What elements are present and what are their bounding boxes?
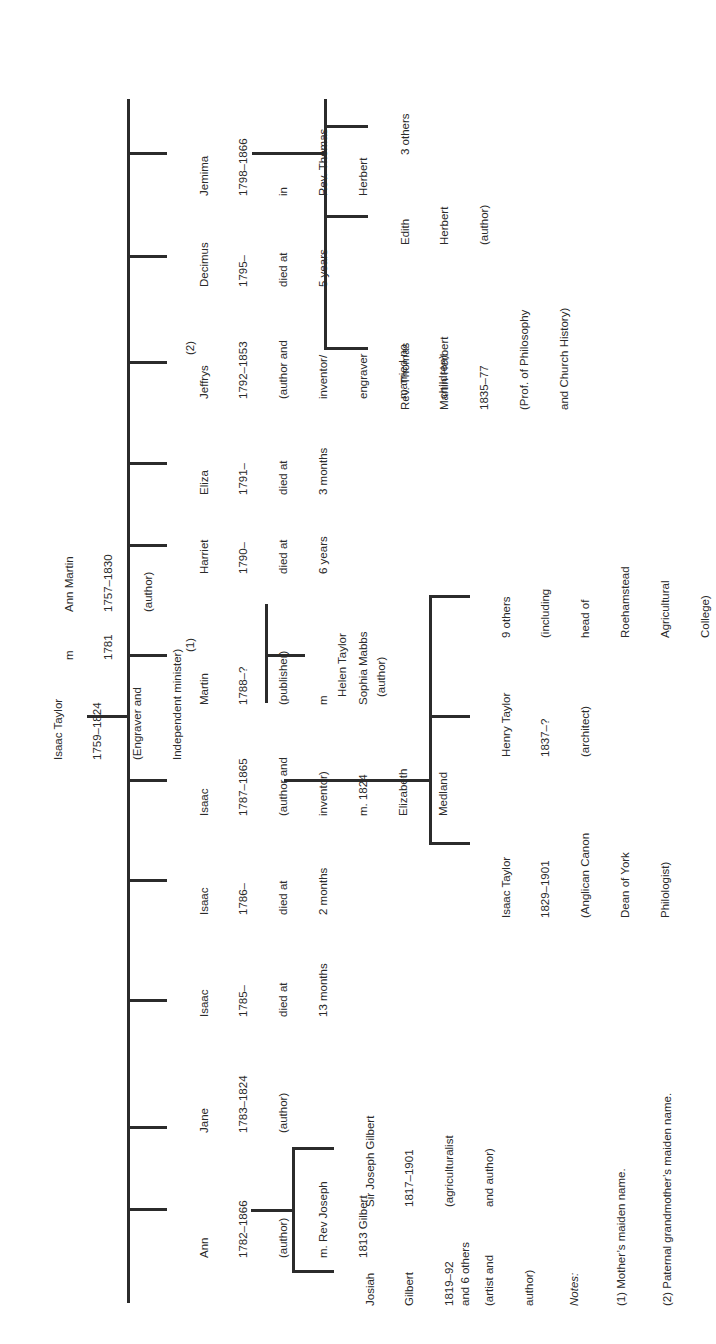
text-line: died at — [277, 868, 290, 915]
text-line: died at — [277, 242, 290, 287]
text-line: Eliza — [198, 448, 211, 495]
text-line: Elizabeth — [397, 757, 410, 816]
text-line: Harriet — [198, 536, 211, 574]
note-item: (2) Paternal grandmother’s maiden name. — [660, 1093, 676, 1306]
branch-jane — [127, 1126, 167, 1129]
grandchild-henry-taylor: Henry Taylor 1837–? (architect) — [473, 693, 606, 757]
text-line: Ann — [198, 1181, 211, 1258]
child-isaac-1787: Isaac 1787–1865 (author and inventor) m.… — [171, 757, 464, 816]
text-line: Edith — [399, 205, 412, 245]
text-line: Isaac — [198, 963, 211, 1017]
text-line: author) — [523, 1255, 536, 1306]
text-line: 1788–? — [237, 631, 250, 705]
text-line: (Prof. of Philosophy — [518, 308, 531, 410]
text-line: 1835–77 — [478, 308, 491, 410]
text-line: (agriculturalist — [443, 1116, 456, 1207]
text-line: (Engraver and — [131, 649, 144, 760]
text-line: Jane — [198, 1075, 211, 1133]
text-line: inventor) — [317, 757, 330, 816]
branch-jemima — [127, 152, 167, 155]
text-line: 1798–1866 — [237, 129, 250, 196]
child-isaac-1785: Isaac 1785– died at 13 months — [171, 963, 344, 1017]
text-line: 1783–1824 — [237, 1075, 250, 1133]
text-line: Roehamstead — [619, 566, 632, 638]
text-line: Isaac — [198, 868, 211, 915]
text-line: Henry Taylor — [500, 693, 513, 757]
text-line: 1781 — [102, 634, 115, 660]
text-line: 5 years — [317, 242, 330, 287]
text-line: 1791– — [237, 448, 250, 495]
text-line: 1782–1866 — [237, 1181, 250, 1258]
text-line: Martin Herbert — [438, 308, 451, 410]
text-line: Jemima — [198, 129, 211, 196]
text-line: 1786– — [237, 868, 250, 915]
text-line: 13 months — [317, 963, 330, 1017]
text-line: m — [63, 634, 76, 660]
text-line: Rev. Thomas — [399, 308, 412, 410]
text-line: 1757–1830 — [102, 554, 115, 612]
branch-3-others — [324, 125, 368, 128]
branch-henry — [429, 715, 470, 718]
text-line: Isaac Taylor — [52, 649, 65, 760]
text-line: (author and — [277, 757, 290, 816]
text-line: 3 months — [317, 448, 330, 495]
text-line: Rev. Thomas — [317, 129, 330, 196]
ann-others-label: and 6 others — [432, 1242, 485, 1306]
grandchild-9-others: 9 others (including head of Roehamstead … — [473, 566, 716, 638]
text-line: died at — [277, 536, 290, 574]
text-line: 1795– — [237, 242, 250, 287]
text-line: Decimus — [198, 242, 211, 287]
text-line: died at — [277, 448, 290, 495]
branch-isaac-1785 — [127, 999, 167, 1002]
branch-jeffrys — [127, 361, 167, 364]
text-line: Medland — [437, 757, 450, 816]
text-line: (author) — [375, 633, 388, 697]
branch-9-others — [429, 595, 470, 598]
child-isaac-1786: Isaac 1786– died at 2 months — [171, 868, 344, 915]
text-line: (architect) — [579, 693, 592, 757]
text-line: (author) — [478, 205, 491, 245]
text-line: Dean of York — [619, 833, 632, 918]
child-jane: Jane 1783–1824 (author) — [171, 1075, 304, 1133]
text-line: 1785– — [237, 963, 250, 1017]
text-line: Isaac Taylor — [500, 833, 513, 918]
branch-decimus — [127, 255, 167, 258]
text-line: 1759–1824 — [91, 649, 104, 760]
grandchild-helen-taylor: Helen Taylor (author) — [309, 633, 402, 697]
text-line: and 6 others — [459, 1242, 472, 1306]
text-line: (author) — [142, 554, 155, 612]
text-line: in — [277, 129, 290, 196]
text-line: Gilbert — [403, 1255, 416, 1306]
branch-eliza — [127, 462, 167, 465]
marriage-label: m 1781 — [36, 634, 129, 660]
child-decimus: Decimus 1795– died at 5 years — [171, 242, 344, 287]
branch-harriet — [127, 544, 167, 547]
text-line: Helen Taylor — [336, 633, 349, 697]
text-line: 9 others — [500, 566, 513, 638]
grandchild-edith-herbert: Edith Herbert (author) — [372, 205, 505, 245]
text-line: Josiah — [364, 1255, 377, 1306]
text-line: (author and — [277, 340, 290, 399]
text-line: 3 others — [399, 113, 412, 155]
text-line: and Church History) — [558, 308, 571, 410]
text-line: College) — [699, 566, 712, 638]
child-eliza: Eliza 1791– died at 3 months — [171, 448, 344, 495]
text-line: 2 months — [317, 868, 330, 915]
grandchild-rev-thomas-martin-herbert: Rev. Thomas Martin Herbert 1835–77 (Prof… — [372, 308, 585, 410]
text-line: (artist and — [483, 1255, 496, 1306]
text-line: (publisher) — [277, 631, 290, 705]
text-line: 1837–? — [539, 693, 552, 757]
child-jemima: Jemima 1798–1866 in Rev. Thomas Herbert — [171, 129, 384, 196]
text-line: 6 years — [317, 536, 330, 574]
text-line: inventor/ — [317, 340, 330, 399]
child-harriet: Harriet 1790– died at 6 years — [171, 536, 344, 574]
text-line: Philologist) — [659, 833, 672, 918]
text-line: died at — [277, 963, 290, 1017]
text-line: Sir Joseph Gilbert — [364, 1116, 377, 1207]
text-line: 1787–1865 — [237, 757, 250, 816]
text-line: 1792–1853 — [237, 340, 250, 399]
text-line: (Anglican Canon — [579, 833, 592, 918]
text-line: and author) — [483, 1116, 496, 1207]
notes: Notes: (1) Mother’s maiden name. (2) Pat… — [536, 1093, 691, 1306]
branch-edith — [324, 215, 368, 218]
